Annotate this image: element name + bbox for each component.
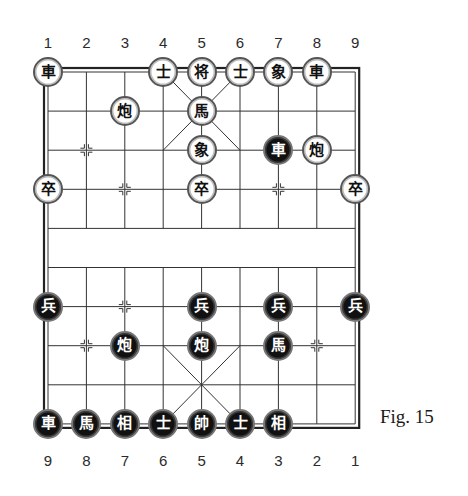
bottom-file-label: 9: [38, 452, 58, 469]
top-file-label: 1: [38, 34, 58, 51]
solid-soldier-piece[interactable]: 兵: [340, 292, 370, 322]
bottom-file-label: 8: [76, 452, 96, 469]
solid-soldier-piece[interactable]: 兵: [187, 292, 217, 322]
outline-advisor-piece[interactable]: 士: [148, 57, 178, 87]
solid-horse-piece[interactable]: 馬: [263, 331, 293, 361]
solid-soldier-piece[interactable]: 兵: [263, 292, 293, 322]
bottom-file-label: 6: [153, 452, 173, 469]
outline-advisor-piece[interactable]: 士: [225, 57, 255, 87]
solid-advisor-piece[interactable]: 士: [225, 409, 255, 439]
outline-cannon-piece[interactable]: 炮: [302, 135, 332, 165]
figure-caption: Fig. 15: [380, 406, 434, 428]
outline-general-piece[interactable]: 将: [187, 57, 217, 87]
top-file-label: 8: [307, 34, 327, 51]
outline-soldier-piece[interactable]: 卒: [187, 174, 217, 204]
solid-soldier-piece[interactable]: 兵: [33, 292, 63, 322]
top-file-label: 4: [153, 34, 173, 51]
top-file-label: 5: [192, 34, 212, 51]
solid-elephant-piece[interactable]: 相: [110, 409, 140, 439]
bottom-file-label: 7: [115, 452, 135, 469]
bottom-file-label: 1: [345, 452, 365, 469]
bottom-file-label: 3: [268, 452, 288, 469]
outline-horse-piece[interactable]: 馬: [187, 96, 217, 126]
outline-cannon-piece[interactable]: 炮: [110, 96, 140, 126]
solid-chariot-piece[interactable]: 車: [33, 409, 63, 439]
outline-chariot-piece[interactable]: 車: [302, 57, 332, 87]
xiangqi-diagram: 123456789987654321 車士将士象車炮馬象炮卒卒卒車兵兵兵兵炮炮馬…: [0, 0, 468, 496]
top-file-label: 9: [345, 34, 365, 51]
top-file-label: 6: [230, 34, 250, 51]
bottom-file-label: 5: [192, 452, 212, 469]
solid-advisor-piece[interactable]: 士: [148, 409, 178, 439]
top-file-label: 3: [115, 34, 135, 51]
bottom-file-label: 2: [307, 452, 327, 469]
solid-cannon-piece[interactable]: 炮: [110, 331, 140, 361]
solid-general-piece[interactable]: 帥: [187, 409, 217, 439]
top-file-label: 7: [268, 34, 288, 51]
top-file-label: 2: [76, 34, 96, 51]
bottom-file-label: 4: [230, 452, 250, 469]
solid-cannon-piece[interactable]: 炮: [187, 331, 217, 361]
outline-chariot-piece[interactable]: 車: [33, 57, 63, 87]
outline-elephant-piece[interactable]: 象: [187, 135, 217, 165]
